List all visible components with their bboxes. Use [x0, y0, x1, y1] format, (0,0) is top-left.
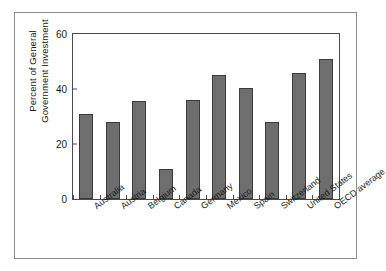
bar-slot — [126, 34, 153, 199]
bar-slot — [233, 34, 260, 199]
bar[interactable] — [212, 75, 226, 199]
y-axis-title-line-2: Government Investment — [39, 0, 51, 151]
bar-slot — [100, 34, 127, 199]
x-tick-mark — [73, 195, 74, 199]
figure-frame: Percent of General Government Investment… — [14, 12, 357, 259]
plot-box: 0204060 — [72, 33, 340, 200]
bar-slot — [73, 34, 100, 199]
bar[interactable] — [265, 122, 279, 199]
bar-slot — [206, 34, 233, 199]
plot-area: 0204060 — [73, 34, 339, 199]
bar[interactable] — [319, 59, 333, 199]
bar-series — [73, 34, 339, 199]
bar-slot — [286, 34, 313, 199]
y-axis-title: Percent of General Government Investment — [27, 0, 55, 151]
bar[interactable] — [292, 73, 306, 200]
y-tick-label: 60 — [56, 29, 67, 40]
y-tick-label: 40 — [56, 84, 67, 95]
y-tick-label: 0 — [61, 194, 67, 205]
bar[interactable] — [79, 114, 93, 199]
bar-slot — [259, 34, 286, 199]
bar-slot — [153, 34, 180, 199]
y-axis-title-line-1: Percent of General — [27, 0, 39, 151]
bar[interactable] — [239, 88, 253, 199]
bar-slot — [179, 34, 206, 199]
y-tick-label: 20 — [56, 139, 67, 150]
bar[interactable] — [132, 101, 146, 199]
